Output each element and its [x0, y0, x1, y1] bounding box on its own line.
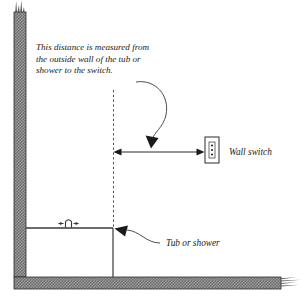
floor-break-mark-icon — [281, 277, 301, 286]
floor-slab — [14, 277, 301, 289]
wall-switch-label: Wall switch — [229, 147, 272, 157]
curved-leader-arrow-icon — [136, 82, 167, 149]
wall-break-mark-icon — [15, 0, 24, 12]
double-arrow-icon — [114, 149, 205, 156]
faucet-icon — [59, 220, 79, 228]
distance-note-line1: This distance is measured from — [36, 42, 149, 52]
distance-note-line2: the outside wall of the tub or — [36, 54, 141, 64]
vertical-wall — [14, 0, 26, 277]
tub-leader-line — [115, 226, 161, 244]
diagram-illustration: This distance is measured from the outsi… — [0, 0, 308, 302]
switch-plate-icon — [205, 137, 219, 163]
tub-or-shower-label: Tub or shower — [166, 238, 220, 248]
diagram-canvas: This distance is measured from the outsi… — [0, 0, 308, 302]
distance-note-line3: shower to the switch. — [36, 65, 113, 75]
tub-outline — [26, 228, 113, 277]
